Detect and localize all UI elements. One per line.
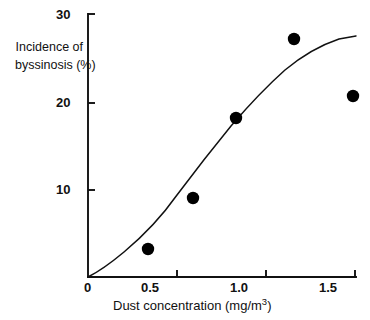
data-point-5: [347, 90, 359, 102]
data-point-2: [187, 192, 199, 204]
x-tick-label-1-5: 1.5: [319, 281, 337, 294]
y-tick-label-10: 10: [56, 183, 70, 196]
data-point-1: [142, 243, 154, 255]
y-tick-label-30: 30: [56, 8, 70, 21]
x-axis-title: Dust concentration (mg/m3): [113, 299, 271, 312]
data-point-4: [288, 33, 300, 45]
y-axis-title-line2: byssinosis (%): [15, 56, 83, 74]
y-axis-title-line1: Incidence of: [15, 38, 83, 56]
x-axis-title-tail: ): [267, 298, 271, 313]
x-axis-title-main: Dust concentration (mg/m: [113, 298, 262, 313]
y-axis-title: Incidence of byssinosis (%): [15, 38, 83, 74]
y-tick-label-20: 20: [56, 96, 70, 109]
x-tick-label-0: 0: [84, 281, 91, 294]
x-tick-label-1-0: 1.0: [230, 281, 248, 294]
x-tick-label-0-5: 0.5: [141, 281, 159, 294]
data-point-3: [230, 112, 242, 124]
chart-figure: 30 20 10 0 0.5 1.0 1.5 Incidence of byss…: [0, 0, 370, 320]
fitted-curve: [88, 36, 356, 277]
